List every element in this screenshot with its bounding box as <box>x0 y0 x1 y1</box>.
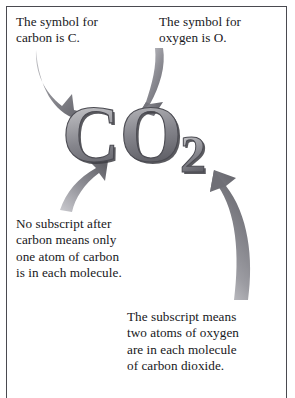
caption-carbon-symbol: The symbol for carbon is C. <box>16 14 148 47</box>
formula-subscript-2: 2 <box>180 126 206 183</box>
caption-subscript-meaning: The subscript means two atoms of oxygen … <box>127 309 289 375</box>
caption-oxygen-symbol: The symbol for oxygen is O. <box>159 14 289 47</box>
caption-no-subscript: No subscript after carbon means only one… <box>16 216 166 282</box>
formula-co: CO <box>62 90 182 178</box>
